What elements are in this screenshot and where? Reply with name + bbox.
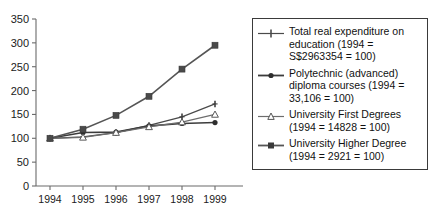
y-axis-tick-label: 200 <box>11 85 29 97</box>
line-chart-svg: 050100150200250300350 199419951996199719… <box>0 0 245 216</box>
legend-label-polytechnic: Polytechnic (advanced) diploma courses (… <box>289 67 404 105</box>
x-axis-tick-label: 1997 <box>137 193 161 205</box>
plus-marker-icon <box>258 26 284 39</box>
chart-legend: Total real expenditure on education (199… <box>252 18 428 170</box>
y-axis-tick-label: 50 <box>17 156 29 168</box>
legend-label-university-first-degrees: University First Degrees (1994 = 14828 =… <box>289 108 401 133</box>
y-axis-tick-label: 250 <box>11 61 29 73</box>
x-axis-tick-label: 1998 <box>170 193 194 205</box>
legend-item-total-real-expenditure: Total real expenditure on education (199… <box>258 25 422 63</box>
filled-circle-marker-icon <box>258 68 284 81</box>
y-axis-tick-label: 300 <box>11 37 29 49</box>
legend-label-total-real-expenditure: Total real expenditure on education (199… <box>289 25 404 63</box>
x-axis: 199419951996199719981999 <box>36 186 243 205</box>
data-series-group <box>47 42 219 141</box>
x-axis-tick-label: 1995 <box>71 193 95 205</box>
x-axis-tick-label: 1999 <box>203 193 227 205</box>
series-hollow-triangle-marker <box>47 111 219 141</box>
series-filled-square-marker <box>47 42 218 141</box>
y-axis-tick-label: 350 <box>11 13 29 25</box>
x-axis-tick-label: 1996 <box>104 193 128 205</box>
y-axis-tick-label: 150 <box>11 108 29 120</box>
chart-screenshot: 050100150200250300350 199419951996199719… <box>0 0 437 216</box>
y-axis: 050100150200250300350 <box>11 13 36 192</box>
series-plus-marker <box>47 101 217 142</box>
legend-item-polytechnic: Polytechnic (advanced) diploma courses (… <box>258 67 422 105</box>
y-axis-tick-label: 100 <box>11 132 29 144</box>
legend-item-university-higher-degree: University Higher Degree (1994 = 2921 = … <box>258 137 422 162</box>
hollow-triangle-marker-icon <box>258 109 284 122</box>
legend-item-university-first-degrees: University First Degrees (1994 = 14828 =… <box>258 108 422 133</box>
chart-plot-area: 050100150200250300350 199419951996199719… <box>0 0 245 216</box>
y-axis-tick-label: 0 <box>23 180 29 192</box>
x-axis-tick-label: 1994 <box>38 193 62 205</box>
legend-label-university-higher-degree: University Higher Degree (1994 = 2921 = … <box>289 137 406 162</box>
filled-square-marker-icon <box>258 138 284 151</box>
